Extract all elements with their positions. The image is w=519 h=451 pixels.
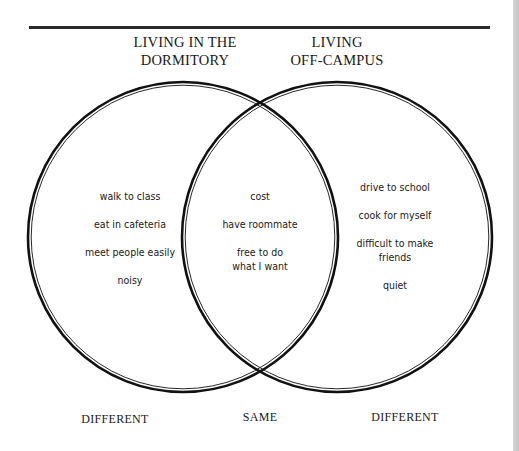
off-campus-only-list: drive to school cook for myself difficul… <box>335 181 455 307</box>
list-item-line: what I want <box>204 260 316 274</box>
list-item-line: free to do <box>204 246 316 260</box>
title-dormitory: LIVING IN THE DORMITORY <box>110 33 260 69</box>
label-different-left: DIFFERENT <box>70 412 160 427</box>
list-item: have roommate <box>204 218 316 232</box>
label-different-right: DIFFERENT <box>360 410 450 425</box>
shared-list: cost have roommate free to do what I wan… <box>204 190 316 288</box>
dormitory-only-list: walk to class eat in cafeteria meet peop… <box>70 190 190 302</box>
list-item: cost <box>204 190 316 204</box>
title-line: OFF-CAMPUS <box>262 51 412 69</box>
list-item: drive to school <box>335 181 455 195</box>
list-item-line: friends <box>335 251 455 265</box>
list-item: eat in cafeteria <box>70 218 190 232</box>
list-item-line: difficult to make <box>335 237 455 251</box>
list-item: cook for myself <box>335 209 455 223</box>
title-line: LIVING IN THE <box>110 33 260 51</box>
list-item: quiet <box>335 279 455 293</box>
list-item: free to do what I want <box>204 246 316 274</box>
list-item: walk to class <box>70 190 190 204</box>
list-item: noisy <box>70 274 190 288</box>
list-item: meet people easily <box>70 246 190 260</box>
label-same: SAME <box>230 410 290 425</box>
title-off-campus: LIVING OFF-CAMPUS <box>262 33 412 69</box>
title-line: LIVING <box>262 33 412 51</box>
title-line: DORMITORY <box>110 51 260 69</box>
list-item: difficult to make friends <box>335 237 455 265</box>
